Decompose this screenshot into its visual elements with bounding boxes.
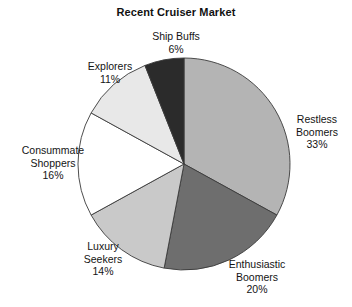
pie-chart-figure: Recent Cruiser Market Ship Buffs 6% Expl… <box>0 0 352 307</box>
slice-label-explorers-value: 11% <box>64 73 156 86</box>
slice-label-restless-boomers-name-line2: Boomers <box>284 126 350 139</box>
slice-label-consummate-shoppers-name-line1: Consummate <box>4 144 102 157</box>
slice-label-enthusiastic-boomers-name-line1: Enthusiastic <box>205 258 309 271</box>
slice-label-restless-boomers: Restless Boomers 33% <box>284 113 350 151</box>
slice-label-ship-buffs-value: 6% <box>130 43 222 56</box>
slice-label-consummate-shoppers-value: 16% <box>4 169 102 182</box>
slice-label-enthusiastic-boomers-value: 20% <box>205 283 309 296</box>
slice-label-restless-boomers-value: 33% <box>284 138 350 151</box>
slice-label-explorers-name: Explorers <box>64 60 156 73</box>
slice-label-luxury-seekers: Luxury Seekers 14% <box>56 240 150 278</box>
slice-label-luxury-seekers-value: 14% <box>56 265 150 278</box>
slice-label-restless-boomers-name-line1: Restless <box>284 113 350 126</box>
slice-label-consummate-shoppers-name-line2: Shoppers <box>4 157 102 170</box>
slice-label-ship-buffs-name: Ship Buffs <box>130 30 222 43</box>
slice-label-enthusiastic-boomers-name-line2: Boomers <box>205 271 309 284</box>
slice-label-explorers: Explorers 11% <box>64 60 156 85</box>
slice-label-luxury-seekers-name-line2: Seekers <box>56 253 150 266</box>
slice-label-ship-buffs: Ship Buffs 6% <box>130 30 222 55</box>
slice-label-enthusiastic-boomers: Enthusiastic Boomers 20% <box>205 258 309 296</box>
slice-label-luxury-seekers-name-line1: Luxury <box>56 240 150 253</box>
pie-slice-group <box>78 58 290 270</box>
slice-label-consummate-shoppers: Consummate Shoppers 16% <box>4 144 102 182</box>
